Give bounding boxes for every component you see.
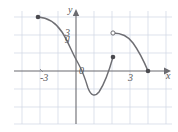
graph-canvas: [0, 0, 178, 132]
graph-figure: g 0 3 -3 3 x y: [0, 0, 178, 132]
x-axis-label: x: [166, 71, 170, 81]
curve-g-right-branch: [113, 33, 148, 71]
marker-closed-endpoint-far-right: [146, 69, 151, 74]
marker-closed-endpoint-left: [36, 15, 41, 20]
marker-open-endpoint-right: [111, 31, 115, 35]
origin-label: 0: [79, 66, 84, 76]
y-tick-label-3: 3: [65, 28, 70, 38]
x-tick-label-3: 3: [128, 73, 133, 83]
marker-closed-endpoint-mid: [111, 55, 116, 60]
y-axis-label: y: [68, 5, 72, 15]
x-tick-label-neg3: -3: [40, 73, 48, 83]
